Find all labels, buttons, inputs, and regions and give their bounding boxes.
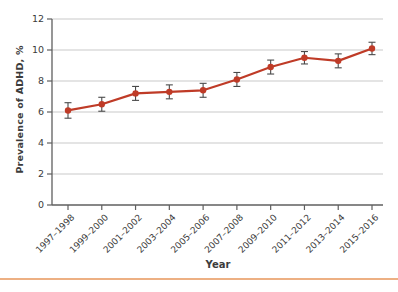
data-point bbox=[65, 107, 71, 113]
y-axis-title: Prevalence of ADHD, % bbox=[14, 10, 25, 210]
x-axis-title: Year bbox=[168, 259, 268, 270]
data-point bbox=[200, 87, 206, 93]
data-point bbox=[267, 64, 273, 70]
adhd-prevalence-chart: 0246810121997–19981999–20002001–20022003… bbox=[0, 0, 398, 258]
page: 0246810121997–19981999–20002001–20022003… bbox=[0, 0, 398, 292]
data-point bbox=[132, 90, 138, 96]
y-tick-label: 4 bbox=[38, 137, 44, 148]
y-tick-label: 8 bbox=[38, 75, 44, 86]
y-tick-label: 10 bbox=[32, 44, 44, 55]
data-point bbox=[301, 55, 307, 61]
decorative-bottom-rule bbox=[0, 278, 398, 280]
data-point bbox=[335, 58, 341, 64]
data-point bbox=[166, 89, 172, 95]
y-tick-label: 12 bbox=[32, 13, 44, 24]
y-tick-label: 2 bbox=[38, 168, 44, 179]
y-tick-label: 6 bbox=[38, 106, 44, 117]
trend-line bbox=[68, 48, 372, 110]
data-point bbox=[99, 101, 105, 107]
data-point bbox=[234, 76, 240, 82]
data-point bbox=[369, 45, 375, 51]
y-tick-label: 0 bbox=[38, 199, 44, 210]
